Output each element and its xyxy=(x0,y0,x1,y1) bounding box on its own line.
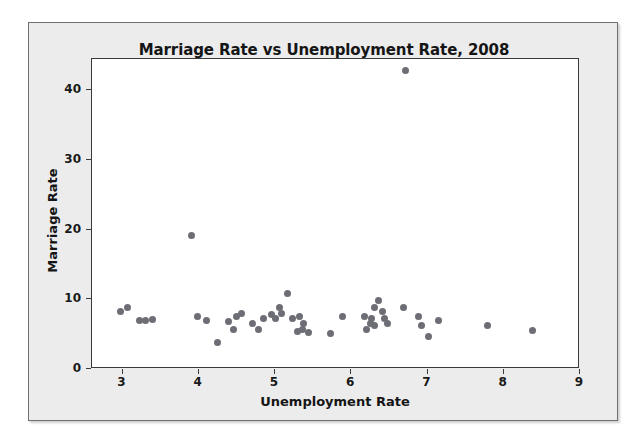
scatter-point xyxy=(117,308,124,315)
x-axis-tick xyxy=(503,369,504,374)
scatter-point xyxy=(124,304,131,311)
scatter-point xyxy=(278,310,285,317)
scatter-point xyxy=(238,310,245,317)
x-axis-tick xyxy=(579,369,580,374)
x-axis-tick-label: 5 xyxy=(270,375,278,389)
x-axis-tick-label: 4 xyxy=(194,375,202,389)
y-axis-tick xyxy=(86,89,91,90)
scatter-point xyxy=(371,322,378,329)
scatter-point xyxy=(272,315,279,322)
scatter-point xyxy=(203,317,210,324)
scatter-point xyxy=(305,329,312,336)
scatter-point xyxy=(371,304,378,311)
y-axis-tick-label: 0 xyxy=(49,361,81,375)
scatter-point xyxy=(379,308,386,315)
y-axis-tick xyxy=(86,159,91,160)
y-axis-tick xyxy=(86,229,91,230)
x-axis-title: Unemployment Rate xyxy=(91,394,579,409)
scatter-points-layer xyxy=(92,59,578,367)
scatter-point xyxy=(289,315,296,322)
x-axis-tick-label: 9 xyxy=(575,375,583,389)
x-axis-tick-label: 7 xyxy=(422,375,430,389)
scatter-point xyxy=(400,304,407,311)
x-axis-tick xyxy=(274,369,275,374)
y-axis-tick-label: 40 xyxy=(49,82,81,96)
x-axis-tick xyxy=(350,369,351,374)
scatter-point xyxy=(484,322,491,329)
x-axis-tick-label: 6 xyxy=(346,375,354,389)
scatter-point xyxy=(188,232,195,239)
scatter-point xyxy=(402,67,409,74)
scatter-point xyxy=(361,313,368,320)
scatter-point xyxy=(425,333,432,340)
y-axis-tick xyxy=(86,368,91,369)
scatter-point xyxy=(327,330,334,337)
scatter-point xyxy=(284,290,291,297)
chart-title: Marriage Rate vs Unemployment Rate, 2008 xyxy=(29,41,619,59)
scatter-point xyxy=(255,326,262,333)
chart-figure-frame: Marriage Rate vs Unemployment Rate, 2008… xyxy=(28,22,618,421)
scatter-point xyxy=(260,315,267,322)
scatter-point xyxy=(375,297,382,304)
scatter-point xyxy=(415,313,422,320)
scatter-point xyxy=(225,318,232,325)
scatter-point xyxy=(339,313,346,320)
scatter-point xyxy=(384,320,391,327)
scatter-point xyxy=(214,339,221,346)
scatter-point xyxy=(194,313,201,320)
scatter-point xyxy=(249,320,256,327)
x-axis-tick-label: 8 xyxy=(499,375,507,389)
y-axis-tick-label: 10 xyxy=(49,291,81,305)
scatter-point xyxy=(529,327,536,334)
scatter-point xyxy=(230,326,237,333)
x-axis-tick-label: 3 xyxy=(117,375,125,389)
y-axis-title: Marriage Rate xyxy=(45,151,60,291)
scatter-point xyxy=(149,316,156,323)
x-axis-tick xyxy=(198,369,199,374)
x-axis-tick xyxy=(122,369,123,374)
scatter-point xyxy=(435,317,442,324)
y-axis-tick xyxy=(86,298,91,299)
x-axis-tick xyxy=(427,369,428,374)
plot-area xyxy=(91,58,579,368)
scatter-point xyxy=(296,313,303,320)
scatter-point xyxy=(142,317,149,324)
scatter-point xyxy=(418,322,425,329)
